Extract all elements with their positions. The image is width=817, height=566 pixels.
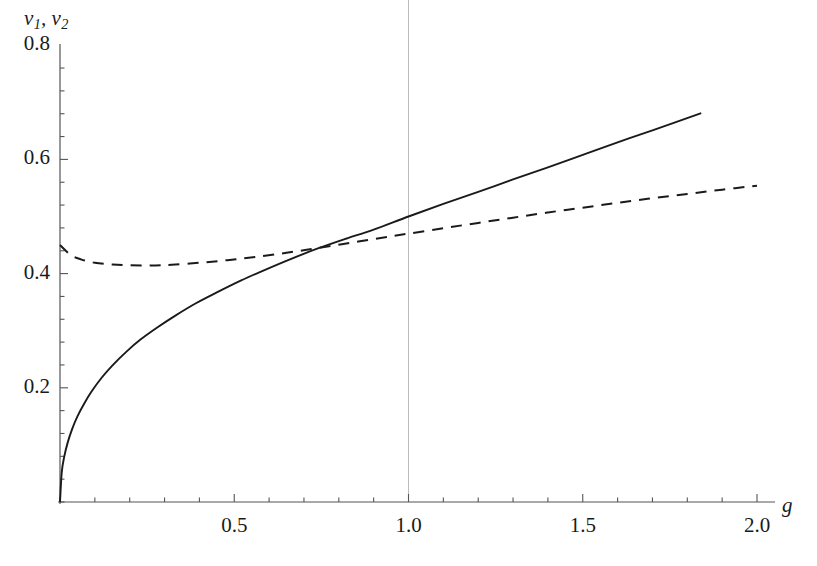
x-axis-tick-label: 0.5: [204, 513, 264, 538]
y-axis-tick-label: 0.8: [0, 31, 50, 56]
x-axis-tick-label: 1.5: [553, 513, 613, 538]
axes-group: [58, 44, 775, 504]
y-axis-tick-label: 0.2: [0, 374, 50, 399]
y-axis-label-v2: v2: [51, 6, 68, 30]
y-axis-label: v1, v2: [24, 6, 68, 33]
y-axis-label-v1: v1: [24, 6, 41, 30]
data-series-v1: [60, 113, 701, 502]
x-axis-tick-label: 1.0: [379, 513, 439, 538]
x-axis-tick-label: 2.0: [727, 513, 787, 538]
chart-figure: v1, v2 g 0.51.01.52.00.20.40.60.8: [0, 0, 817, 566]
plot-canvas: [0, 0, 817, 566]
y-axis-label-separator: ,: [41, 6, 52, 30]
y-axis-tick-label: 0.4: [0, 260, 50, 285]
y-axis-tick-label: 0.6: [0, 145, 50, 170]
